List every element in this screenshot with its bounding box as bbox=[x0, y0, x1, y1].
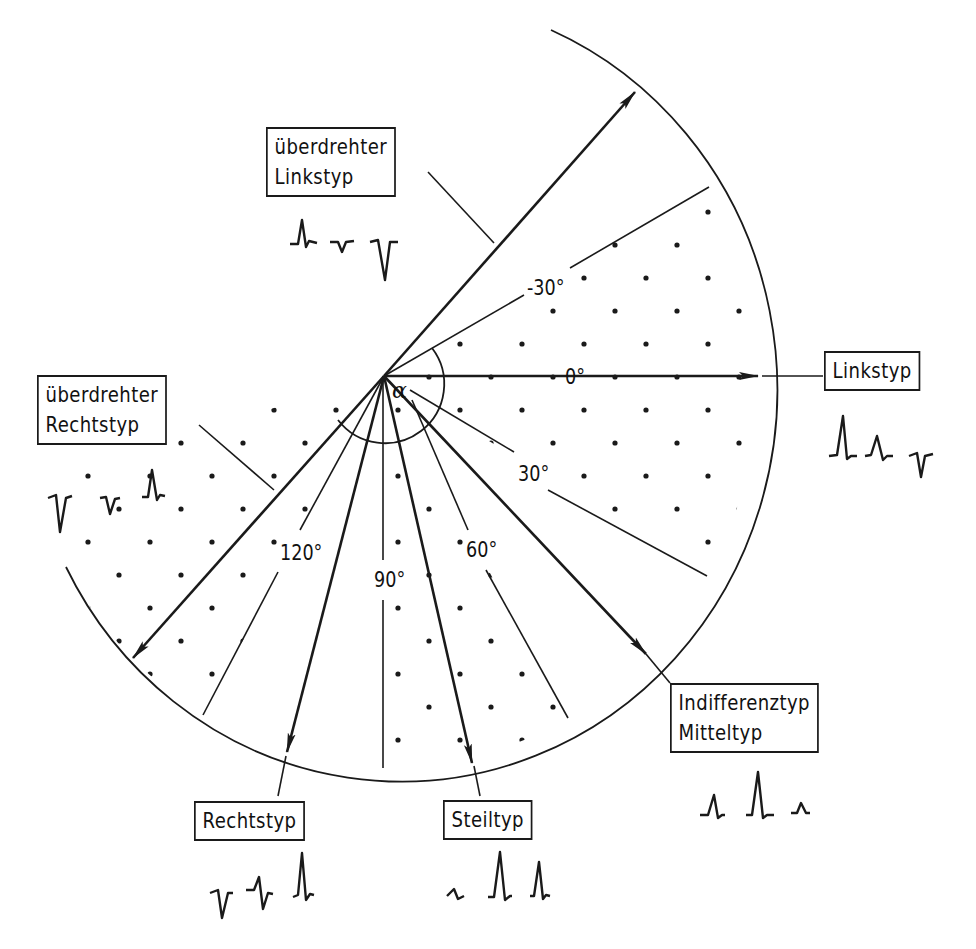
box-label-line2: Mitteltyp bbox=[679, 718, 810, 748]
box-label-line2: Linkstyp bbox=[275, 162, 388, 192]
box-label-line1: Indifferenztyp bbox=[679, 688, 810, 718]
box-label-line1: Linkstyp bbox=[833, 356, 912, 386]
box-ueberdrehter-linkstyp: überdrehter Linkstyp bbox=[266, 127, 396, 197]
leader-steiltyp bbox=[474, 766, 480, 796]
ecg-icon bbox=[829, 416, 857, 459]
angle-label-90: 90° bbox=[374, 567, 405, 592]
ecg-icon bbox=[293, 853, 314, 900]
angle-label-120: 120° bbox=[280, 540, 322, 565]
ecg-icon bbox=[370, 240, 398, 280]
angle-label-0: 0° bbox=[565, 364, 585, 389]
box-rechtstyp: Rechtstyp bbox=[194, 801, 305, 841]
box-ueberdrehter-rechtstyp: überdrehter Rechtstyp bbox=[37, 375, 167, 445]
box-label-line1: überdrehter bbox=[46, 380, 159, 410]
angle-label-60: 60° bbox=[466, 537, 497, 562]
ecg-icon bbox=[746, 772, 774, 818]
box-linkstyp: Linkstyp bbox=[824, 351, 920, 391]
angle-label-minus30: -30° bbox=[527, 275, 565, 300]
ecg-icon bbox=[246, 877, 273, 909]
box-steiltyp: Steiltyp bbox=[443, 800, 533, 840]
ecg-icon bbox=[330, 241, 354, 252]
ecg-icon bbox=[447, 889, 464, 899]
ecg-icon bbox=[530, 862, 550, 899]
box-label-line1: überdrehter bbox=[275, 132, 388, 162]
ecg-icon bbox=[909, 453, 933, 477]
ecg-icon bbox=[700, 795, 725, 818]
ecg-icon bbox=[488, 852, 512, 900]
ecg-icon bbox=[210, 890, 233, 918]
leader-ueberdrehter-linkstyp bbox=[428, 172, 494, 243]
box-label-line1: Steiltyp bbox=[452, 805, 524, 835]
ecg-icon bbox=[290, 220, 317, 247]
alpha-symbol: α bbox=[392, 378, 407, 403]
box-indifferenztyp: Indifferenztyp Mitteltyp bbox=[670, 683, 819, 753]
box-label-line2: Rechtstyp bbox=[46, 410, 159, 440]
ecg-icon bbox=[791, 803, 810, 813]
angle-label-30: 30° bbox=[518, 461, 549, 486]
ecg-icon bbox=[865, 436, 893, 460]
box-label-line1: Rechtstyp bbox=[203, 806, 297, 836]
